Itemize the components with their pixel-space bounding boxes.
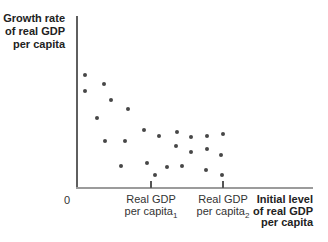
x-axis-tick-2 [222,181,224,188]
data-point [220,173,225,178]
data-point [205,147,210,152]
x-axis-title-line: of real GDP [253,205,313,217]
x-axis-tick-1 [150,181,152,188]
y-axis-title: Growth rate of real GDP per capita [0,12,65,51]
data-point [175,130,180,135]
x-axis-title-line: Initial level [257,193,313,205]
x-tick-label-1-line1: Real GDP [126,193,176,205]
x-axis-title-line: per capita [261,216,313,228]
y-axis-line [76,16,78,188]
scatter-chart-figure: Growth rate of real GDP per capita 0 Rea… [0,0,328,242]
data-point [102,82,107,87]
data-point [83,73,88,78]
data-point [174,144,179,149]
data-point [219,153,224,158]
data-point [189,135,194,140]
data-point [145,161,150,166]
data-point [204,168,209,173]
data-point [95,116,100,121]
origin-label: 0 [60,194,74,206]
y-axis-title-line: Growth rate [3,12,65,24]
y-axis-title-line: of real GDP [5,25,65,37]
data-point [142,128,147,133]
x-tick-label-1-subscript: 1 [173,211,177,220]
x-axis-line [76,187,313,189]
data-point [109,98,114,103]
data-point [189,150,194,155]
x-tick-label-1-line2: per capita [125,205,173,217]
data-point [126,107,131,112]
data-point [157,134,162,139]
data-point [119,164,124,169]
data-point [123,139,128,144]
data-point [83,89,88,94]
data-point [180,164,185,169]
y-axis-title-line: per capita [13,38,65,50]
data-point [103,139,108,144]
x-axis-title: Initial level of real GDP per capita [233,194,313,229]
data-point [153,173,158,178]
data-point [165,165,170,170]
data-point [205,134,210,139]
data-point [221,132,226,137]
